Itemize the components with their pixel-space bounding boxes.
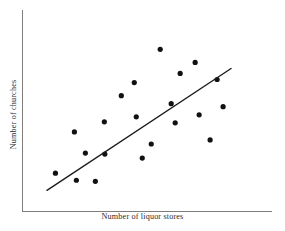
data-point <box>93 179 98 184</box>
data-point <box>197 112 202 117</box>
data-point <box>178 71 183 76</box>
data-point <box>158 47 163 52</box>
data-point <box>134 114 139 119</box>
data-point <box>173 120 178 125</box>
data-point <box>72 129 77 134</box>
data-point <box>193 60 198 65</box>
data-point <box>149 141 154 146</box>
data-point <box>140 156 145 161</box>
data-point <box>208 137 213 142</box>
plot-canvas <box>0 0 285 231</box>
data-points-group <box>53 47 226 184</box>
data-point <box>132 80 137 85</box>
data-point <box>169 101 174 106</box>
x-axis-label: Number of liquor stores <box>0 212 285 221</box>
data-point <box>74 178 79 183</box>
data-point <box>221 104 226 109</box>
data-point <box>119 93 124 98</box>
data-point <box>83 150 88 155</box>
y-axis-label: Number of churches <box>9 55 18 175</box>
scatter-plot-figure: Number of liquor stores Number of church… <box>0 0 285 231</box>
data-point <box>53 171 58 176</box>
data-point <box>102 119 107 124</box>
